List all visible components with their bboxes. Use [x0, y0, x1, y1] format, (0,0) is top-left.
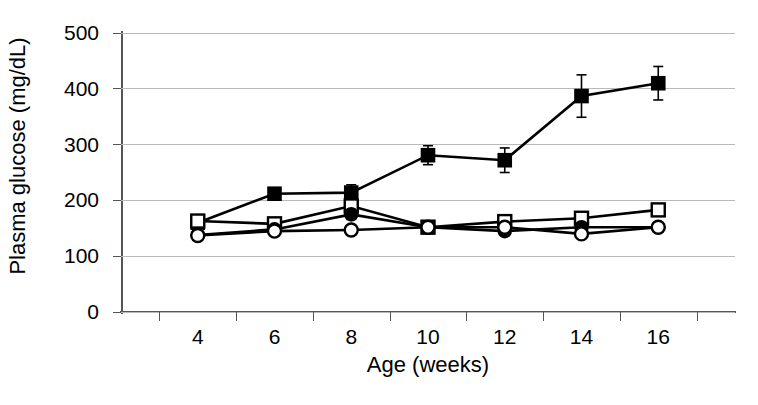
x-tick-mark	[697, 312, 698, 321]
x-tick-mark	[543, 312, 544, 321]
x-tick-label: 10	[398, 325, 458, 349]
marker-open-square	[652, 203, 665, 216]
y-tick-mark	[113, 256, 121, 257]
y-tick-mark	[113, 33, 121, 34]
glucose-line-chart: Plasma glucose (mg/dL) 0100200300400500 …	[0, 0, 758, 405]
y-tick-label: 500	[43, 22, 99, 43]
x-tick-label: 8	[321, 325, 381, 349]
x-tick-label: 14	[552, 325, 612, 349]
plot-area: 0100200300400500 46810121416	[121, 33, 735, 312]
y-axis-title: Plasma glucose (mg/dL)	[0, 0, 36, 312]
x-tick-label: 12	[475, 325, 535, 349]
y-tick-mark	[113, 88, 121, 89]
marker-open-square	[191, 215, 204, 228]
marker-open-circle	[652, 221, 665, 234]
y-tick-mark	[113, 144, 121, 145]
marker-filled-square	[422, 149, 435, 162]
series-svg	[121, 33, 735, 312]
marker-filled-square	[268, 187, 281, 200]
x-tick-label: 4	[168, 325, 228, 349]
marker-open-circle	[498, 221, 511, 234]
data-series-layer	[121, 33, 735, 312]
x-tick-mark	[159, 312, 160, 321]
series-filled-square	[191, 66, 665, 229]
x-tick-mark	[466, 312, 467, 321]
y-tick-mark	[113, 200, 121, 201]
x-tick-label: 16	[628, 325, 688, 349]
y-tick-label: 400	[43, 78, 99, 99]
marker-open-circle	[191, 229, 204, 242]
x-tick-mark	[390, 312, 391, 321]
marker-filled-square	[345, 186, 358, 199]
y-tick-label: 200	[43, 189, 99, 210]
marker-open-circle	[422, 221, 435, 234]
y-tick-label: 100	[43, 245, 99, 266]
x-axis-title: Age (weeks)	[121, 352, 735, 378]
x-tick-mark	[313, 312, 314, 321]
marker-open-circle	[268, 225, 281, 238]
marker-filled-square	[652, 77, 665, 90]
marker-open-circle	[575, 227, 588, 240]
marker-filled-square	[498, 154, 511, 167]
y-tick-mark	[113, 312, 121, 313]
x-tick-label: 6	[245, 325, 305, 349]
marker-filled-square	[575, 90, 588, 103]
x-tick-mark	[236, 312, 237, 321]
y-tick-label: 300	[43, 134, 99, 155]
y-tick-label: 0	[43, 301, 99, 322]
x-tick-mark	[620, 312, 621, 321]
marker-open-circle	[345, 223, 358, 236]
marker-filled-circle	[345, 208, 358, 221]
